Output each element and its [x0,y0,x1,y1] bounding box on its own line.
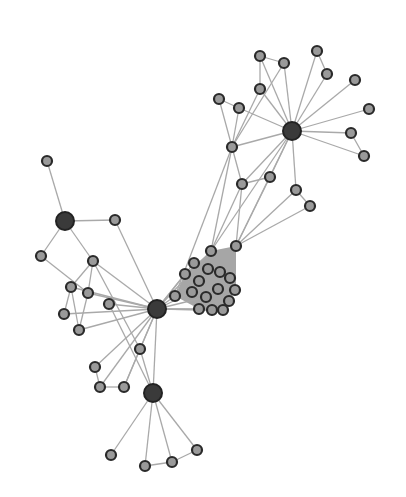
graph-edge [153,393,197,450]
graph-node [104,299,114,309]
graph-node [213,284,223,294]
graph-node [234,103,244,113]
graph-node [255,84,265,94]
graph-node [42,156,52,166]
graph-node [230,285,240,295]
graph-node [291,185,301,195]
graph-node [206,246,216,256]
network-graph [0,0,406,497]
graph-node [170,291,180,301]
graph-node [322,69,332,79]
hub-node [148,300,166,318]
graph-node [350,75,360,85]
graph-edge [71,287,79,330]
graph-node [201,292,211,302]
graph-node [255,51,265,61]
graph-node [364,104,374,114]
graph-node [227,142,237,152]
graph-edge [153,393,172,462]
graph-edge [124,349,140,387]
graph-node [74,325,84,335]
graph-node [207,305,217,315]
graph-node [279,58,289,68]
graph-node [180,269,190,279]
graph-edge [292,51,317,131]
graph-edge [153,309,157,393]
hub-node [283,122,301,140]
graph-node [95,382,105,392]
graph-node [119,382,129,392]
graph-node [194,276,204,286]
graph-node [189,258,199,268]
graph-node [218,305,228,315]
graph-node [135,344,145,354]
graph-node [214,94,224,104]
graph-node [110,215,120,225]
graph-node [346,128,356,138]
graph-node [194,304,204,314]
graph-node [187,287,197,297]
graph-node [88,256,98,266]
graph-node [305,201,315,211]
graph-node [203,264,213,274]
graph-node [225,273,235,283]
graph-node [83,288,93,298]
graph-node [36,251,46,261]
graph-node [359,151,369,161]
graph-node [167,457,177,467]
hub-node [56,212,74,230]
graph-node [106,450,116,460]
graph-node [59,309,69,319]
graph-node [312,46,322,56]
graph-node [215,267,225,277]
graph-edge [93,261,140,349]
graph-node [140,461,150,471]
graph-edge [115,220,157,309]
graph-edge [292,80,355,131]
graph-node [231,241,241,251]
graph-node [66,282,76,292]
graph-node [90,362,100,372]
graph-edge [219,99,232,147]
graph-node [192,445,202,455]
graph-edge [232,89,260,147]
graph-node [265,172,275,182]
graph-node [237,179,247,189]
hub-node [144,384,162,402]
